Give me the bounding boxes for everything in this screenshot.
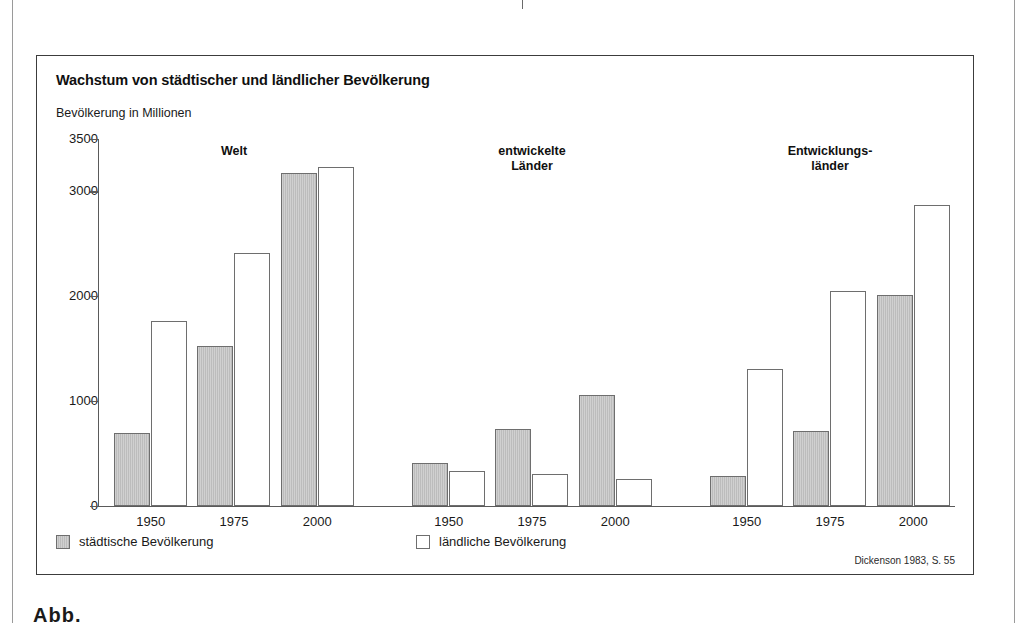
page-margin-rule-right <box>1014 0 1015 623</box>
legend-label-urban: städtische Bevölkerung <box>79 534 213 549</box>
bar-rural-2000 <box>914 205 950 506</box>
bar-pair-1975: 1975 <box>788 56 871 506</box>
x-axis-label-1975: 1975 <box>490 514 573 529</box>
bar-pair-2000: 2000 <box>574 56 657 506</box>
bar-rural-1950 <box>449 471 485 506</box>
legend-item-rural: ländliche Bevölkerung <box>416 534 566 549</box>
y-tick-mark <box>90 296 98 297</box>
bar-group-3: Entwicklungs- länder195019752000 <box>705 56 955 506</box>
legend-item-urban: städtische Bevölkerung <box>56 534 213 549</box>
bar-urban-2000 <box>281 173 317 506</box>
bar-rural-2000 <box>318 167 354 506</box>
bar-chart-plot: 01000200030003500 Welt195019752000entwic… <box>37 56 975 576</box>
source-citation: Dickenson 1983, S. 55 <box>854 555 955 566</box>
legend-label-rural: ländliche Bevölkerung <box>439 534 566 549</box>
bar-urban-1975 <box>495 429 531 506</box>
y-tick-mark <box>90 401 98 402</box>
figure-frame: Wachstum von städtischer und ländlicher … <box>36 55 974 575</box>
x-axis-label-2000: 2000 <box>276 514 359 529</box>
legend-swatch-rural-icon <box>416 535 430 549</box>
bar-pair-1975: 1975 <box>490 56 573 506</box>
bar-urban-1975 <box>793 431 829 506</box>
x-axis-label-1950: 1950 <box>109 514 192 529</box>
page-margin-rule-left <box>12 0 13 623</box>
y-tick-mark <box>90 191 98 192</box>
bar-rural-1975 <box>830 291 866 506</box>
bar-group-1: Welt195019752000 <box>109 56 359 506</box>
cut-off-caption-bottom: Abb. <box>33 604 81 623</box>
x-axis-label-1975: 1975 <box>788 514 871 529</box>
bar-urban-2000 <box>877 295 913 506</box>
x-axis-label-1975: 1975 <box>192 514 275 529</box>
legend-swatch-urban-icon <box>56 535 70 549</box>
bar-urban-1950 <box>114 433 150 506</box>
chart-legend: städtische Bevölkerung ländliche Bevölke… <box>37 534 973 556</box>
x-axis-label-1950: 1950 <box>407 514 490 529</box>
bar-rural-1975 <box>234 253 270 506</box>
bar-pair-1950: 1950 <box>109 56 192 506</box>
bar-rural-1950 <box>747 369 783 506</box>
y-tick-mark <box>90 139 98 140</box>
bar-pair-1950: 1950 <box>705 56 788 506</box>
bar-rural-1975 <box>532 474 568 506</box>
x-axis-label-2000: 2000 <box>574 514 657 529</box>
x-axis-label-1950: 1950 <box>705 514 788 529</box>
page-artifact-mark <box>522 0 523 9</box>
y-tick-mark <box>90 506 98 507</box>
bar-rural-2000 <box>616 479 652 506</box>
x-axis-label-2000: 2000 <box>872 514 955 529</box>
bar-urban-1950 <box>412 463 448 506</box>
bar-pair-2000: 2000 <box>276 56 359 506</box>
bar-pair-1975: 1975 <box>192 56 275 506</box>
bar-urban-1975 <box>197 346 233 506</box>
bar-rural-1950 <box>151 321 187 506</box>
y-axis-line <box>98 139 99 506</box>
x-axis-line <box>98 506 955 507</box>
bar-pair-2000: 2000 <box>872 56 955 506</box>
bar-pair-1950: 1950 <box>407 56 490 506</box>
bar-urban-2000 <box>579 395 615 506</box>
bar-group-2: entwickelte Länder195019752000 <box>407 56 657 506</box>
bar-urban-1950 <box>710 476 746 506</box>
